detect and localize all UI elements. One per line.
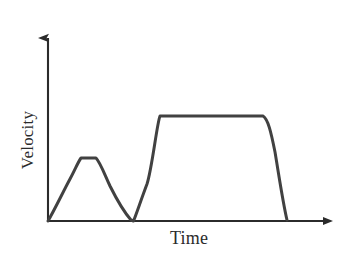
x-axis-label: Time	[148, 228, 230, 249]
y-axis-label: Velocity	[0, 122, 68, 158]
velocity-curve	[48, 116, 287, 221]
velocity-time-figure: Velocity Time	[0, 0, 353, 257]
